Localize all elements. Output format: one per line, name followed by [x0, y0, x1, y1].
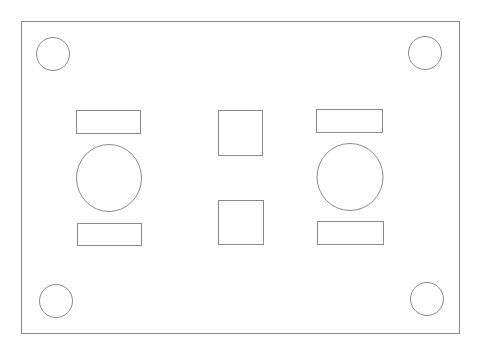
slot-right-bottom [318, 222, 384, 245]
corner-hole-bottom-right [411, 283, 444, 316]
plate-drawing [0, 0, 482, 349]
slot-left-bottom [78, 224, 142, 246]
slot-right-top [317, 110, 383, 133]
square-cutout-center-top [219, 111, 263, 156]
square-cutout-center-bottom [219, 201, 264, 245]
square-cutouts [219, 111, 264, 245]
corner-hole-bottom-left [40, 285, 73, 318]
slot-left-top [77, 111, 141, 134]
large-hole-right [317, 144, 383, 211]
slots [77, 110, 384, 246]
corner-holes [37, 37, 444, 318]
large-hole-left [77, 145, 142, 212]
plate-outline [22, 22, 460, 334]
corner-hole-top-right [409, 37, 442, 70]
corner-hole-top-left [37, 38, 70, 71]
large-holes [77, 144, 384, 212]
